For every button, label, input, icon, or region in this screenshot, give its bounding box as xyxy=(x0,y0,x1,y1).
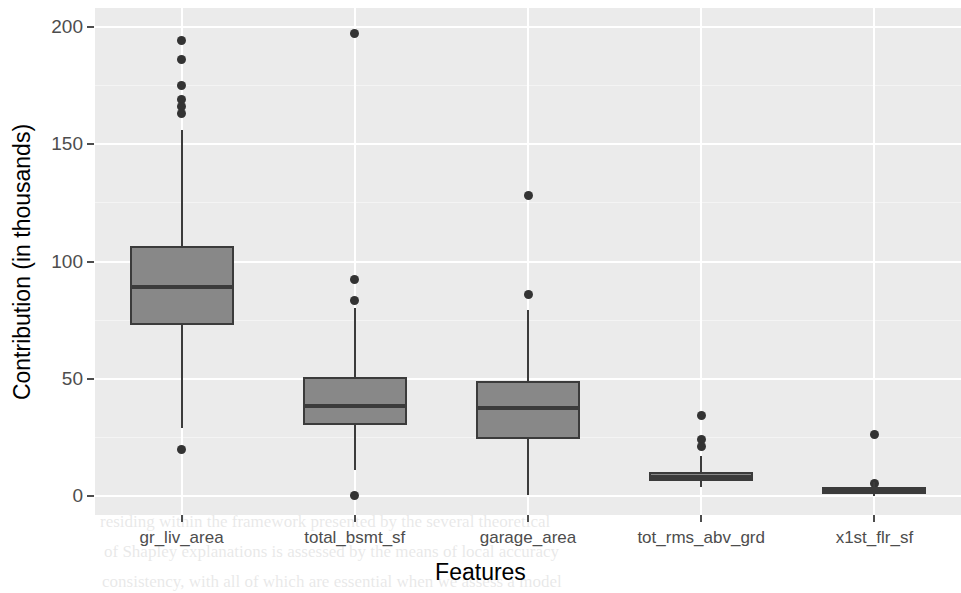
x-axis-tick-label-gr_liv_area: gr_liv_area xyxy=(140,528,224,548)
boxplot-x1st_flr_sf xyxy=(788,8,961,515)
boxplot-figure: Contribution (in thousands) 050100150200… xyxy=(0,0,961,593)
y-axis-tick-mark xyxy=(87,143,94,145)
whisker-upper xyxy=(527,310,529,382)
x-axis-tick-mark xyxy=(873,515,875,522)
boxplot-garage_area xyxy=(441,8,614,515)
x-axis-tick-label-garage_area: garage_area xyxy=(480,528,576,548)
median-line xyxy=(130,285,234,289)
whisker-lower xyxy=(527,439,529,495)
y-axis-tick-label: 50 xyxy=(62,368,83,390)
y-axis-tick-label: 200 xyxy=(51,16,83,38)
whisker-lower xyxy=(181,325,183,428)
whisker-upper xyxy=(354,308,356,376)
boxplot-total_bsmt_sf xyxy=(268,8,441,515)
whisker-lower xyxy=(354,425,356,471)
median-line xyxy=(303,404,407,408)
median-line xyxy=(476,406,580,410)
y-axis-tick-mark xyxy=(87,26,94,28)
boxplot-gr_liv_area xyxy=(95,8,268,515)
y-axis-tick-mark xyxy=(87,378,94,380)
x-axis-tick-mark xyxy=(527,515,529,522)
x-axis-tick-mark xyxy=(700,515,702,522)
x-axis-tick-label-total_bsmt_sf: total_bsmt_sf xyxy=(304,528,405,548)
boxplot-tot_rms_abv_grd xyxy=(615,8,788,515)
whisker-upper xyxy=(700,456,702,471)
x-axis-tick-mark xyxy=(354,515,356,522)
x-axis-title: Features xyxy=(0,559,961,586)
x-axis-tick-label-tot_rms_abv_grd: tot_rms_abv_grd xyxy=(637,528,765,548)
whisker-lower xyxy=(873,494,875,496)
x-axis-tick-label-x1st_flr_sf: x1st_flr_sf xyxy=(836,528,913,548)
y-axis-tick-mark xyxy=(87,261,94,263)
plot-panel xyxy=(95,8,961,515)
y-axis-tick-label: 100 xyxy=(51,251,83,273)
y-axis-tick-label: 150 xyxy=(51,133,83,155)
y-axis-tick-label: 0 xyxy=(72,485,83,507)
whisker-upper xyxy=(181,130,183,246)
y-axis-title: Contribution (in thousands) xyxy=(9,123,36,399)
y-axis-tick-mark xyxy=(87,495,94,497)
x-axis-tick-mark xyxy=(181,515,183,522)
box-iqr xyxy=(303,377,407,425)
median-line xyxy=(822,488,926,492)
median-line xyxy=(649,475,753,479)
whisker-lower xyxy=(700,481,702,487)
